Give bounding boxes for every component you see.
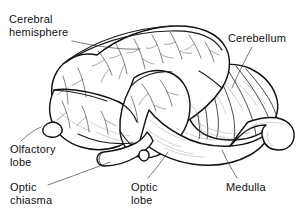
label-optic-chiasma-line1: Optic [10, 181, 37, 193]
label-optic-chiasma: Opticchiasma [10, 181, 52, 206]
label-medulla-line1: Medulla [226, 181, 266, 193]
pituitary-knob [139, 150, 149, 161]
label-cerebellum-line1: Cerebellum [228, 32, 286, 44]
label-cerebral-hemisphere-line2: hemisphere [9, 26, 68, 38]
brain-diagram: Cerebralhemisphere Cerebellum Olfactoryl… [0, 0, 302, 219]
label-optic-chiasma-line2: chiasma [10, 194, 52, 206]
olfactory-lobe-knob [43, 122, 62, 137]
label-olfactory-lobe-line2: lobe [10, 156, 32, 168]
label-optic-lobe-line2: lobe [131, 194, 153, 206]
label-cerebellum: Cerebellum [228, 32, 286, 45]
label-optic-lobe: Opticlobe [131, 181, 158, 206]
label-cerebral-hemisphere-line1: Cerebral [9, 13, 53, 25]
leader-optic-chiasma [48, 162, 110, 185]
label-olfactory-lobe: Olfactorylobe [10, 143, 56, 168]
label-cerebral-hemisphere: Cerebralhemisphere [9, 13, 68, 38]
label-optic-lobe-line1: Optic [131, 181, 158, 193]
label-olfactory-lobe-line1: Olfactory [10, 143, 56, 155]
leader-olfactory-lobe [21, 127, 41, 141]
label-medulla: Medulla [226, 181, 266, 194]
